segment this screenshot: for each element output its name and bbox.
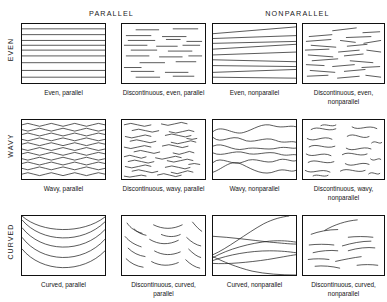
caption-discontinuous-curved-parallel: Discontinuous, curved, parallel — [121, 280, 206, 298]
panel-wavy-nonparallel — [212, 119, 297, 180]
caption-discontinuous-even-parallel: Discontinuous, even, parallel — [121, 88, 206, 97]
caption-even-nonparallel: Even, nonparallel — [212, 88, 297, 97]
panel-diagram-discontinuous-curved-nonparallel — [303, 216, 384, 275]
caption-discontinuous-wavy-parallel: Discontinuous, wavy, parallel — [121, 184, 206, 193]
panel-diagram-even-nonparallel — [213, 24, 296, 83]
panel-wavy-parallel — [21, 119, 106, 180]
caption-discontinuous-curved-nonparallel: Discontinuous, curved, nonparallel — [302, 280, 385, 298]
panel-diagram-wavy-parallel — [22, 120, 105, 179]
caption-discontinuous-wavy-nonparallel: Discontinuous, wavy, nonparallel — [302, 184, 385, 202]
panel-discontinuous-even-parallel — [121, 23, 206, 84]
panel-diagram-discontinuous-wavy-nonparallel — [303, 120, 384, 179]
caption-wavy-parallel: Wavy, parallel — [21, 184, 106, 193]
panel-diagram-curved-nonparallel — [213, 216, 296, 275]
panel-diagram-discontinuous-curved-parallel — [122, 216, 205, 275]
panel-discontinuous-curved-parallel — [121, 215, 206, 276]
caption-curved-parallel: Curved, parallel — [21, 280, 106, 289]
row-label-even: EVEN — [7, 23, 14, 77]
column-header-nonparallel: NONPARALLEL — [208, 9, 387, 18]
classification-figure: PARALLEL NONPARALLEL EVEN WAVY CURVED Ev… — [0, 0, 387, 302]
panel-discontinuous-wavy-parallel — [121, 119, 206, 180]
column-header-parallel: PARALLEL — [18, 9, 205, 18]
panel-diagram-even-parallel — [22, 24, 105, 83]
panel-even-parallel — [21, 23, 106, 84]
row-label-wavy: WAVY — [7, 119, 14, 173]
caption-wavy-nonparallel: Wavy, nonparallel — [212, 184, 297, 193]
caption-discontinuous-even-nonparallel: Discontinuous, even, nonparallel — [302, 88, 385, 106]
panel-diagram-curved-parallel — [22, 216, 105, 275]
row-label-curved: CURVED — [7, 215, 14, 269]
panel-even-nonparallel — [212, 23, 297, 84]
caption-curved-nonparallel: Curved, nonparallel — [212, 280, 297, 289]
panel-diagram-discontinuous-even-nonparallel — [303, 24, 384, 83]
panel-curved-nonparallel — [212, 215, 297, 276]
panel-diagram-discontinuous-wavy-parallel — [122, 120, 205, 179]
panel-discontinuous-curved-nonparallel — [302, 215, 385, 276]
panel-curved-parallel — [21, 215, 106, 276]
panel-discontinuous-wavy-nonparallel — [302, 119, 385, 180]
panel-diagram-discontinuous-even-parallel — [122, 24, 205, 83]
caption-even-parallel: Even, parallel — [21, 88, 106, 97]
panel-discontinuous-even-nonparallel — [302, 23, 385, 84]
panel-diagram-wavy-nonparallel — [213, 120, 296, 179]
